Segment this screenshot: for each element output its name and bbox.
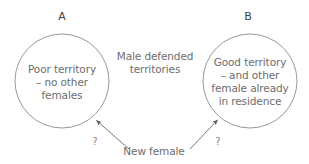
center-caption: Male defended territories	[110, 50, 200, 76]
question-mark-right: ?	[213, 136, 223, 147]
panel-letter-b: B	[228, 11, 268, 23]
circle-a-label: Poor territory – no other females	[14, 63, 110, 102]
territory-choice-diagram: A B Poor territory – no other females Go…	[0, 0, 309, 164]
new-female-label: New female	[112, 145, 196, 158]
panel-letter-a: A	[42, 11, 82, 23]
circle-b-label: Good territory – and other female alread…	[201, 56, 299, 108]
question-mark-left: ?	[90, 136, 100, 147]
